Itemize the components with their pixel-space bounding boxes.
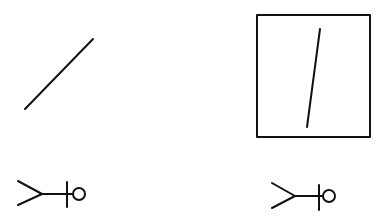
diagram-canvas [0,0,390,223]
diagram-svg [0,0,390,223]
